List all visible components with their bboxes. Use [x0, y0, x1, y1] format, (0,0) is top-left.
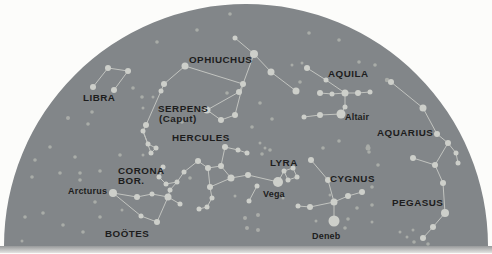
star-hercules — [218, 163, 224, 169]
star-corona-borealis — [182, 170, 187, 175]
star-hercules — [245, 151, 250, 156]
star-aquila — [368, 90, 373, 95]
star-bootes — [150, 192, 155, 197]
background-star — [370, 185, 374, 189]
star-hercules — [205, 165, 211, 171]
background-star — [41, 211, 45, 215]
star-cygnus — [329, 216, 340, 227]
background-star — [155, 40, 159, 44]
label-vega: Vega — [263, 189, 286, 199]
label-aquila: AQUILA — [328, 68, 369, 79]
background-star — [307, 31, 311, 35]
star-pegasus — [410, 155, 416, 161]
star-bootes — [168, 188, 173, 193]
star-hercules — [207, 184, 213, 190]
star-corona-borealis — [175, 180, 180, 185]
background-star — [131, 86, 135, 90]
background-star — [225, 91, 229, 95]
background-star — [259, 142, 262, 145]
background-star — [140, 95, 144, 99]
star-serpens-caput — [143, 122, 149, 128]
label-altair: Altair — [345, 112, 370, 122]
star-pegasus — [432, 162, 438, 168]
star-serpens-caput — [182, 63, 189, 70]
star-aquila — [317, 112, 323, 118]
label-aquarius: AQUARIUS — [377, 127, 433, 138]
label-cygnus: CYGNUS — [330, 173, 375, 184]
star-hercules — [228, 175, 235, 182]
background-star — [258, 101, 262, 105]
star-libra — [90, 84, 96, 90]
label-pegasus: PEGASUS — [392, 197, 443, 208]
background-star — [366, 146, 371, 151]
label-bootes: BOÖTES — [105, 228, 149, 239]
star-lyra — [282, 169, 287, 174]
star-corona-borealis — [164, 182, 169, 187]
star-pegasus — [441, 209, 449, 217]
star-libra — [105, 65, 111, 71]
sky-svg: LIBRASERPENS(Caput)OPHIUCHUSHERCULESCORO… — [0, 0, 492, 254]
label-arcturus: Arcturus — [68, 186, 107, 196]
horizon-band — [0, 246, 492, 253]
background-star — [142, 107, 145, 110]
star-cygnus — [296, 204, 301, 209]
background-star — [23, 215, 27, 219]
star-pegasus — [430, 224, 436, 230]
sky-dome — [4, 4, 488, 246]
background-star — [61, 223, 65, 227]
background-star — [373, 63, 377, 67]
background-star — [315, 220, 318, 223]
background-star — [33, 158, 37, 162]
background-star — [268, 148, 272, 152]
star-ophiuchus — [232, 112, 238, 118]
label-hercules: HERCULES — [172, 132, 230, 143]
star-bootes — [178, 202, 183, 207]
background-star — [371, 221, 374, 224]
star-aquarius — [445, 140, 451, 146]
star-pegasus — [440, 180, 446, 186]
star-ophiuchus — [218, 117, 224, 123]
label-corona-borealis: BOR. — [118, 175, 145, 186]
star-cygnus — [308, 157, 314, 163]
star-ophiuchus — [233, 36, 238, 41]
background-star — [81, 230, 85, 234]
chain-star — [247, 199, 252, 204]
star-hercules — [195, 158, 201, 164]
star-ophiuchus — [293, 88, 300, 95]
background-star — [355, 206, 359, 210]
star-libra — [125, 68, 131, 74]
background-star — [260, 152, 264, 156]
star-bootes — [109, 189, 117, 197]
background-star — [298, 80, 302, 84]
label-libra: LIBRA — [83, 92, 115, 103]
background-star — [98, 169, 102, 173]
background-star — [152, 96, 155, 99]
label-ophiuchus: OPHIUCHUS — [189, 54, 252, 65]
background-star — [66, 116, 70, 120]
star-cygnus — [331, 199, 338, 206]
label-lyra: LYRA — [270, 157, 298, 168]
star-aquarius — [456, 161, 461, 166]
background-star — [188, 176, 192, 180]
star-cygnus — [345, 193, 351, 199]
background-star — [30, 175, 34, 179]
star-aquila — [343, 105, 348, 110]
label-serpens-caput: (Caput) — [159, 113, 197, 124]
background-star — [343, 226, 347, 230]
background-star — [250, 125, 254, 129]
background-star — [234, 195, 237, 198]
background-star — [270, 117, 274, 121]
background-star — [367, 150, 371, 154]
background-star — [301, 62, 304, 65]
star-ophiuchus — [240, 81, 246, 87]
star-serpens-caput — [159, 89, 164, 94]
star-serpens-caput — [161, 81, 167, 87]
background-star — [426, 242, 430, 246]
star-aquarius — [454, 151, 459, 156]
background-star — [78, 178, 82, 182]
background-star — [21, 240, 24, 243]
star-lyra — [286, 178, 291, 183]
background-star — [98, 215, 102, 219]
star-bootes — [134, 194, 140, 200]
star-aquarius — [434, 131, 440, 137]
